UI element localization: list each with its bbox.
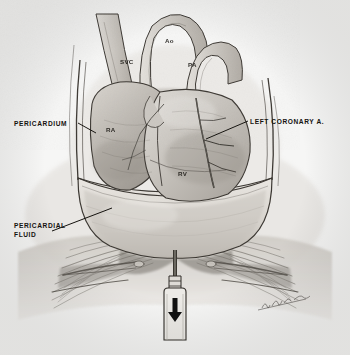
label-right-atrium: RA (106, 125, 116, 134)
illustration-figure: PERICARDIUM PERICARDIAL FLUID LEFT CORON… (0, 0, 350, 355)
label-right-ventricle: RV (178, 169, 187, 178)
label-pericardial-fluid: PERICARDIAL FLUID (14, 221, 66, 239)
label-pulmonary-artery: PA (188, 60, 197, 69)
label-left-coronary-artery: LEFT CORONARY A. (250, 117, 324, 126)
anatomy-drawing (0, 0, 350, 355)
label-pericardium: PERICARDIUM (14, 119, 67, 128)
label-svc: SVC (120, 57, 134, 66)
label-aorta: Ao (165, 36, 174, 45)
